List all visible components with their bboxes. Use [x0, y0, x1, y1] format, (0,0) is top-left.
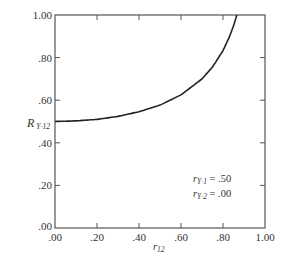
x-tick-label: 1.00 — [255, 231, 275, 243]
y-tick-label: .00 — [38, 220, 52, 232]
y-tick-label: .80 — [38, 52, 52, 64]
parameter-annotation: rY·1 = .50 rY·2 = .00 — [193, 173, 231, 201]
y-tick-label: .60 — [38, 94, 52, 106]
axis-ticks — [55, 15, 265, 228]
annotation-ry2: rY·2 = .00 — [193, 188, 231, 201]
y-tick-label: .40 — [38, 137, 52, 149]
x-tick-labels: .00.20.40.60.801.00 — [48, 231, 275, 243]
x-tick-label: .00 — [48, 231, 62, 243]
x-tick-label: .80 — [216, 231, 230, 243]
plot-frame — [55, 15, 265, 228]
x-tick-label: .20 — [90, 231, 104, 243]
x-tick-label: .40 — [132, 231, 146, 243]
r-y12-curve — [55, 15, 237, 122]
y-tick-label: 1.00 — [33, 9, 53, 21]
x-tick-label: .60 — [174, 231, 188, 243]
y-tick-labels: .00.20.40.60.801.00 — [33, 9, 53, 232]
y-tick-label: .20 — [38, 179, 52, 191]
annotation-ry1: rY·1 = .50 — [193, 173, 231, 186]
y-axis-label: RY·12 — [26, 116, 50, 131]
chart: .00.20.40.60.801.00 .00.20.40.60.801.00 … — [0, 0, 288, 268]
x-axis-label: r12 — [153, 241, 165, 254]
